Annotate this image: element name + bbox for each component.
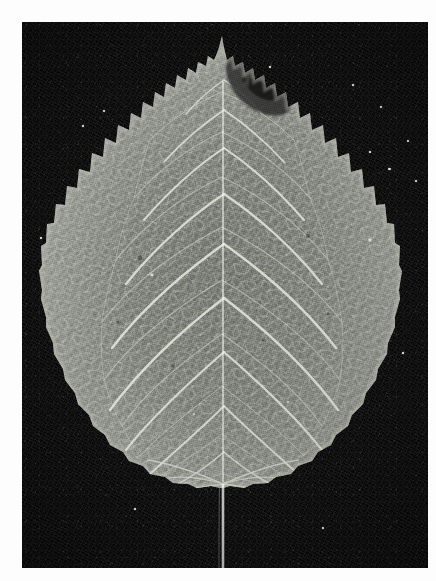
- photo-page: [0, 0, 436, 581]
- photograph-plate: [22, 22, 428, 568]
- petiole: [219, 480, 223, 568]
- leaf-illustration: [22, 22, 428, 568]
